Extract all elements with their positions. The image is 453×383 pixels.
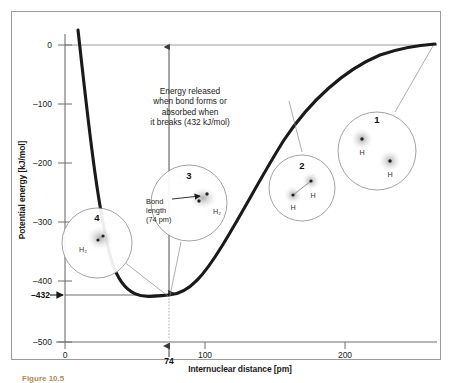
x-tick-label-200: 200 — [325, 350, 365, 360]
bubble-2-number: 2 — [294, 160, 310, 171]
leader-line-bubble-2 — [289, 101, 302, 152]
bubble-4-nucleus-b — [101, 234, 104, 237]
x-tick-label-0: 0 — [45, 350, 85, 360]
y-tick-label-minus100: –100 — [12, 99, 52, 109]
bond-length-label: 74 — [154, 356, 184, 366]
potential-energy-chart — [0, 0, 453, 383]
bubble-2-atom-b-nucleus — [309, 179, 312, 182]
bond-length-line-2: length — [146, 206, 188, 215]
bond-energy-annotation: Energy released when bond forms or absor… — [112, 86, 268, 128]
bubble-3-molecule-cloud — [189, 187, 217, 209]
leader-line-bubble-3 — [170, 242, 181, 296]
bubble-3-molecule-label: H₂ — [208, 207, 226, 216]
figure-caption: Figure 10.5 — [22, 374, 64, 383]
bubble-1-atom-a-nucleus — [360, 137, 363, 140]
x-tick-label-100: 100 — [185, 350, 225, 360]
y-tick-label-0: 0 — [12, 40, 52, 50]
annotation-line-4: it breaks (432 kJ/mol) — [112, 117, 268, 127]
bubble-1-atom-b-nucleus — [388, 159, 391, 162]
bubble-4-number: 4 — [89, 212, 105, 223]
leader-line-bubble-4 — [119, 258, 168, 296]
minimum-energy-label: –432 — [14, 290, 50, 300]
bubble-2-atom-b-label: H — [305, 191, 321, 200]
bubble-4-molecule-label: H₂ — [74, 245, 92, 254]
y-tick-label-minus300: –300 — [12, 217, 52, 227]
bubble-1-atom-b-label: H — [382, 170, 398, 179]
y-axis-title: Potential energy [kJ/mol] — [17, 120, 27, 260]
annotation-line-2: when bond forms or — [112, 96, 268, 106]
bubble-1-number: 1 — [369, 114, 385, 125]
bubble-3-nucleus-a — [197, 199, 200, 202]
bubble-2-atom-a-nucleus — [291, 193, 294, 196]
leader-line-bubble-1 — [395, 46, 433, 112]
figure-container: Potential energy [kJ/mol] Internuclear d… — [0, 0, 453, 383]
bubble-3-bond-length-text: Bond length (74 pm) — [146, 197, 188, 225]
bond-length-line-3: (74 pm) — [146, 215, 188, 224]
bond-length-line-1: Bond — [146, 197, 188, 206]
bubble-3-number: 3 — [181, 170, 197, 181]
bubble-2-atom-a-label: H — [285, 203, 301, 212]
bubble-1-atom-a-label: H — [354, 148, 370, 157]
y-tick-label-minus400: –400 — [12, 276, 52, 286]
annotation-line-3: absorbed when — [112, 107, 268, 117]
y-tick-label-minus200: –200 — [12, 158, 52, 168]
y-tick-label-minus500: –500 — [12, 337, 52, 347]
annotation-line-1: Energy released — [112, 86, 268, 96]
bubble-4-nucleus-a — [96, 238, 99, 241]
bubble-3-nucleus-b — [205, 192, 208, 195]
